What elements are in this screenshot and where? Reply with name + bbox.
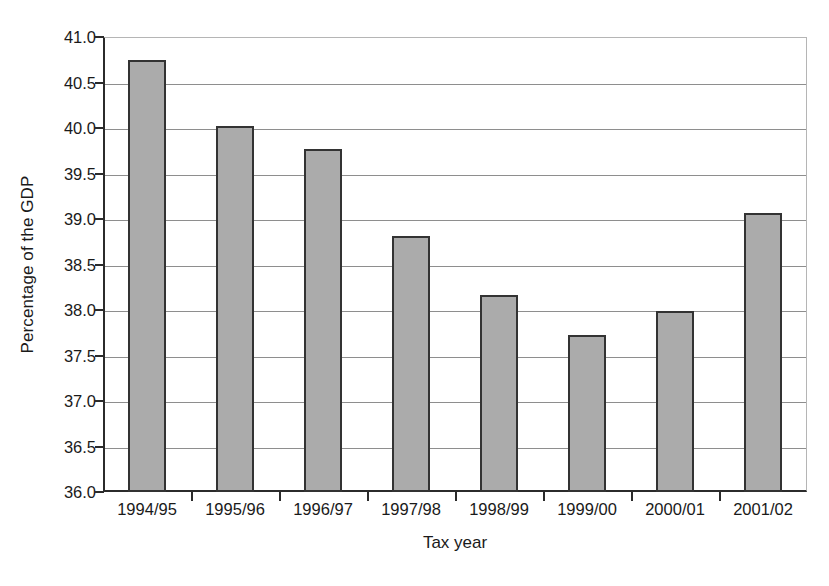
bar <box>128 60 166 492</box>
y-axis-tick-mark <box>95 446 104 448</box>
y-axis-tick-mark <box>95 400 104 402</box>
y-axis-tick-mark <box>95 82 104 84</box>
bar-slot <box>455 37 543 492</box>
y-axis-tick-mark <box>95 218 104 220</box>
x-axis-tick-label-group: 1994/951995/961996/971997/981998/991999/… <box>103 501 807 527</box>
bar <box>744 213 782 492</box>
x-axis-tick-mark <box>631 492 633 501</box>
x-axis-tick-mark <box>191 492 193 501</box>
y-axis-tick-label: 39.5 <box>42 165 96 182</box>
x-axis-tick-mark <box>367 492 369 501</box>
y-axis-tick-label-group: 36.036.537.037.538.038.539.039.540.040.5… <box>42 37 96 492</box>
x-axis-tick-label: 1999/00 <box>557 501 617 518</box>
y-axis-tick-label: 39.0 <box>42 211 96 228</box>
x-axis-tick-label: 1995/96 <box>205 501 265 518</box>
x-axis-tick-mark <box>455 492 457 501</box>
y-axis-tick-label: 36.0 <box>42 484 96 501</box>
bar-slot <box>103 37 191 492</box>
bar <box>216 126 254 492</box>
y-axis-tick-label: 37.5 <box>42 347 96 364</box>
bar-chart-figure: Percentage of the GDP 36.036.537.037.538… <box>0 0 829 586</box>
x-axis-tick-label: 2000/01 <box>645 501 705 518</box>
x-axis-tick-label: 1994/95 <box>117 501 177 518</box>
y-axis-tick-mark <box>95 36 104 38</box>
y-axis-tick-mark <box>95 264 104 266</box>
bar <box>656 311 694 492</box>
x-axis-tick-mark <box>719 492 721 501</box>
y-axis-tick-label: 36.5 <box>42 438 96 455</box>
y-axis-tick-mark <box>95 491 104 493</box>
bar-slot <box>191 37 279 492</box>
y-axis-tick-label: 37.0 <box>42 393 96 410</box>
y-axis-tick-label: 40.0 <box>42 120 96 137</box>
y-axis-tick-label: 40.5 <box>42 74 96 91</box>
y-axis-tick-label: 41.0 <box>42 29 96 46</box>
x-axis-tick-mark <box>543 492 545 501</box>
bar-slot <box>367 37 455 492</box>
x-axis-tick-label: 1997/98 <box>381 501 441 518</box>
x-axis-tick-label: 1998/99 <box>469 501 529 518</box>
y-axis-title: Percentage of the GDP <box>14 37 42 492</box>
bar-slot <box>631 37 719 492</box>
bar-slot <box>719 37 807 492</box>
bar-slot <box>279 37 367 492</box>
bar <box>304 149 342 492</box>
y-axis-tick-label: 38.0 <box>42 302 96 319</box>
y-axis-tick-label: 38.5 <box>42 256 96 273</box>
bar-slot <box>543 37 631 492</box>
bar <box>392 236 430 492</box>
x-axis-tick-label: 1996/97 <box>293 501 353 518</box>
bar-series-group <box>103 37 807 492</box>
bar <box>480 295 518 492</box>
y-axis-tick-mark <box>95 355 104 357</box>
x-axis-tick-label: 2001/02 <box>733 501 793 518</box>
x-axis-title: Tax year <box>103 533 807 553</box>
y-axis-tick-mark <box>95 127 104 129</box>
y-axis-tick-mark <box>95 309 104 311</box>
bar <box>568 335 606 492</box>
x-axis-tick-mark <box>279 492 281 501</box>
y-axis-tick-mark <box>95 173 104 175</box>
